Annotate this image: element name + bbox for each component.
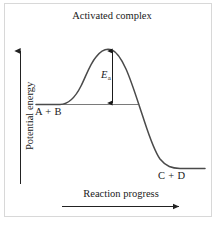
products-label: C + D — [158, 170, 185, 182]
reaction-energy-diagram: Activated complex Ea A + B C + D Potenti… — [0, 0, 218, 232]
y-axis-label: Potential energy — [24, 70, 36, 162]
x-axis-label: Reaction progress — [58, 188, 184, 200]
activation-energy-symbol: E — [101, 69, 107, 80]
activation-energy-label: Ea — [101, 69, 111, 81]
activated-complex-label: Activated complex — [70, 10, 154, 22]
activation-energy-subscript: a — [108, 74, 111, 82]
reactants-label: A + B — [35, 106, 62, 118]
